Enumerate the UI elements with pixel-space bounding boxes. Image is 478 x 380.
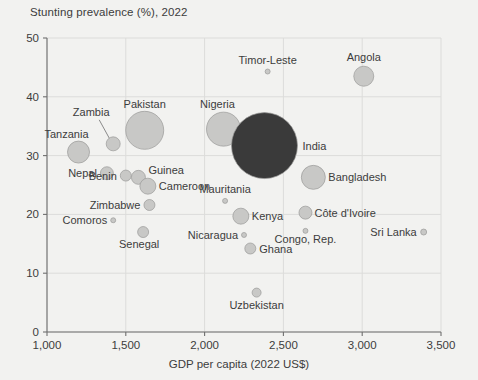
bubble-label: Côte d'Ivoire: [314, 207, 375, 219]
bubble-cameroon[interactable]: [140, 178, 156, 194]
bubble-label: Uzbekistan: [229, 299, 283, 311]
bubble-label: Benin: [89, 170, 117, 182]
data-point-labels: TanzaniaNepalZambiaBeninPakistanGuineaCa…: [44, 51, 417, 310]
bubble-senegal[interactable]: [138, 227, 149, 238]
bubble-tanzania[interactable]: [68, 141, 90, 163]
bubble-label: Nigeria: [200, 98, 236, 110]
bubble-benin[interactable]: [120, 170, 131, 181]
chart-canvas: 010203040501,0001,5002,0002,5003,0003,50…: [0, 0, 478, 380]
bubble-label: Nicaragua: [188, 229, 239, 241]
bubble-label: Angola: [347, 51, 382, 63]
y-tick-label: 40: [26, 91, 39, 103]
x-tick-label: 3,500: [427, 339, 456, 351]
x-axis-title: GDP per capita (2022 US$): [169, 358, 310, 370]
label-leader-line: [99, 120, 110, 140]
bubble-label: Pakistan: [124, 98, 166, 110]
bubble-chart: Stunting prevalence (%), 2022 0102030405…: [0, 0, 478, 380]
bubble-sri-lanka[interactable]: [421, 229, 427, 235]
bubble-label: Mauritania: [199, 183, 251, 195]
y-tick-label: 30: [26, 150, 39, 162]
label-leader-lines: [99, 120, 110, 140]
bubble-timor-leste[interactable]: [265, 69, 270, 74]
bubble-label: Timor-Leste: [238, 54, 296, 66]
bubble-label: Sri Lanka: [370, 226, 417, 238]
bubble-label: Zimbabwe: [90, 199, 141, 211]
bubble-label: Comoros: [63, 214, 108, 226]
bubble-zimbabwe[interactable]: [144, 199, 155, 210]
bubble-pakistan[interactable]: [126, 111, 164, 149]
bubble-uzbekistan[interactable]: [252, 288, 261, 297]
y-tick-label: 50: [26, 32, 39, 44]
bubble-c-te-d-ivoire[interactable]: [299, 206, 312, 219]
bubble-ghana[interactable]: [245, 243, 256, 254]
bubble-india[interactable]: [231, 113, 297, 179]
y-tick-label: 10: [26, 267, 39, 279]
y-tick-label: 0: [33, 326, 39, 338]
x-tick-label: 2,500: [269, 339, 298, 351]
x-tick-label: 1,000: [33, 339, 62, 351]
y-tick-label: 20: [26, 208, 39, 220]
bubble-label: Zambia: [73, 106, 111, 118]
bubble-comoros[interactable]: [111, 218, 116, 223]
bubble-nicaragua[interactable]: [242, 232, 247, 237]
bubble-label: Congo, Rep.: [275, 233, 337, 245]
bubble-kenya[interactable]: [233, 208, 249, 224]
bubble-zambia[interactable]: [106, 137, 120, 151]
bubble-label: Senegal: [119, 238, 159, 250]
x-tick-label: 3,000: [348, 339, 377, 351]
bubble-label: Guinea: [148, 164, 184, 176]
bubble-label: Tanzania: [44, 128, 89, 140]
bubble-mauritania[interactable]: [223, 198, 228, 203]
bubble-label: Bangladesh: [328, 171, 386, 183]
x-tick-label: 1,500: [111, 339, 140, 351]
bubble-label: India: [302, 140, 327, 152]
bubble-bangladesh[interactable]: [301, 165, 325, 189]
bubble-label: Kenya: [252, 210, 284, 222]
bubble-angola[interactable]: [354, 66, 374, 86]
x-tick-label: 2,000: [190, 339, 219, 351]
